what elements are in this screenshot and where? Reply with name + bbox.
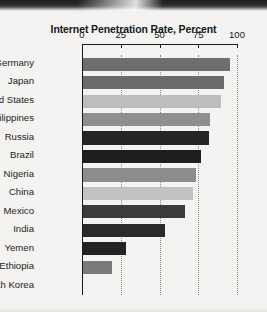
- category-label-brazil: Brazil: [0, 149, 34, 160]
- x-tick-label-100: 100: [229, 29, 245, 40]
- bar-row: Brazil: [0, 147, 267, 165]
- bar-brazil: [83, 150, 201, 163]
- bar-row: Philippines: [0, 110, 267, 128]
- category-label-china: China: [0, 186, 34, 197]
- x-tick-mark-100: [237, 44, 238, 48]
- x-tick-label-75: 75: [193, 29, 204, 40]
- category-label-germany: Germany: [0, 57, 34, 68]
- bar-china: [83, 187, 193, 200]
- bar-ethiopia: [83, 261, 112, 274]
- bar-row: India: [0, 221, 267, 239]
- category-label-mexico: Mexico: [0, 205, 34, 216]
- bar-row: Yemen: [0, 240, 267, 258]
- chart-title: Internet Penetration Rate, Percent: [0, 23, 267, 35]
- category-label-nigeria: Nigeria: [0, 168, 34, 179]
- bar-row: China: [0, 184, 267, 202]
- chart-figure: Internet Penetration Rate, Percent 02550…: [0, 11, 267, 312]
- x-tick-mark-25: [121, 44, 122, 48]
- bar-germany: [83, 58, 230, 71]
- bar-row: Ethiopia: [0, 258, 267, 276]
- bar-row: Germany: [0, 55, 267, 73]
- x-tick-mark-75: [198, 44, 199, 48]
- bar-row: Mexico: [0, 203, 267, 221]
- x-tick-label-25: 25: [115, 29, 126, 40]
- bar-yemen: [83, 242, 126, 255]
- scanned-page-top-edge: [0, 0, 267, 11]
- bar-mexico: [83, 205, 185, 218]
- bar-row: Russia: [0, 129, 267, 147]
- x-tick-mark-0: [82, 44, 83, 48]
- bar-russia: [83, 131, 209, 144]
- x-tick-label-50: 50: [154, 29, 165, 40]
- bar-philippines: [83, 113, 210, 126]
- bar-row: Japan: [0, 73, 267, 91]
- category-label-united-states: United States: [0, 94, 34, 105]
- category-label-russia: Russia: [0, 131, 34, 142]
- category-label-india: India: [0, 223, 34, 234]
- bar-nigeria: [83, 168, 196, 181]
- scanned-page-bottom-edge: [0, 307, 267, 312]
- bar-united-states: [83, 95, 221, 108]
- bar-row: United States: [0, 92, 267, 110]
- category-label-japan: Japan: [0, 75, 34, 86]
- category-label-north-korea: North Korea: [0, 279, 34, 290]
- category-label-yemen: Yemen: [0, 242, 34, 253]
- bar-row: North Korea: [0, 277, 267, 295]
- x-tick-mark-50: [160, 44, 161, 48]
- bar-india: [83, 224, 165, 237]
- bar-row: Nigeria: [0, 166, 267, 184]
- bar-japan: [83, 76, 224, 89]
- category-label-philippines: Philippines: [0, 112, 34, 123]
- x-tick-label-0: 0: [79, 29, 84, 40]
- category-label-ethiopia: Ethiopia: [0, 260, 34, 271]
